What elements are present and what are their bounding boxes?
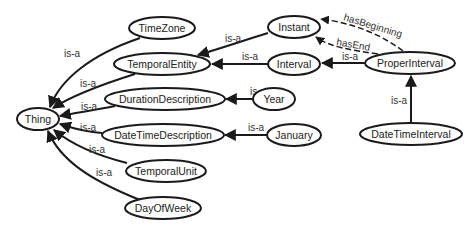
edge-label-isa: is-a bbox=[225, 33, 242, 44]
edge-label-isa: is-a bbox=[248, 122, 265, 133]
svg-text:Thing: Thing bbox=[25, 113, 51, 125]
edge-label-isa: is-a bbox=[391, 95, 408, 106]
edge-label-isa: is-a bbox=[81, 101, 98, 112]
edge-label-isa: is-a bbox=[80, 78, 97, 89]
svg-text:January: January bbox=[275, 129, 313, 141]
node-instant[interactable]: Instant bbox=[268, 16, 320, 38]
svg-text:DayOfWeek: DayOfWeek bbox=[135, 202, 192, 214]
svg-text:Interval: Interval bbox=[277, 58, 311, 70]
node-interval[interactable]: Interval bbox=[268, 53, 320, 75]
svg-text:TemporalUnit: TemporalUnit bbox=[135, 165, 197, 177]
edge-label-isa: is-a bbox=[96, 167, 113, 178]
svg-text:DateTimeInterval: DateTimeInterval bbox=[371, 128, 451, 140]
svg-text:TemporalEntity: TemporalEntity bbox=[127, 58, 197, 70]
node-year[interactable]: Year bbox=[253, 88, 295, 110]
edge-label-isa: is-a bbox=[80, 122, 97, 133]
edge-label-isa: is-a bbox=[64, 48, 81, 59]
node-durationdescription[interactable]: DurationDescription bbox=[105, 88, 225, 110]
svg-text:TimeZone: TimeZone bbox=[139, 22, 186, 34]
node-datetimeinterval[interactable]: DateTimeInterval bbox=[360, 123, 462, 145]
svg-text:Instant: Instant bbox=[278, 21, 310, 33]
node-properinterval[interactable]: ProperInterval bbox=[365, 52, 455, 74]
node-temporalunit[interactable]: TemporalUnit bbox=[126, 160, 206, 182]
edge-label-isa: is-a bbox=[342, 51, 359, 62]
edge-label-isa: is-a bbox=[89, 144, 106, 155]
node-dayofweek[interactable]: DayOfWeek bbox=[125, 197, 201, 219]
svg-text:DateTimeDescription: DateTimeDescription bbox=[114, 129, 212, 141]
node-january[interactable]: January bbox=[267, 124, 321, 146]
edge-label-isa: is-a bbox=[242, 51, 259, 62]
node-timezone[interactable]: TimeZone bbox=[129, 17, 195, 39]
svg-text:ProperInterval: ProperInterval bbox=[377, 57, 443, 69]
svg-text:DurationDescription: DurationDescription bbox=[119, 93, 211, 105]
ontology-diagram: is-a is-a is-a is-a is-a is-a is-a is-a … bbox=[0, 0, 476, 235]
svg-text:Year: Year bbox=[263, 93, 285, 105]
node-thing[interactable]: Thing bbox=[17, 108, 59, 130]
node-datetimedescription[interactable]: DateTimeDescription bbox=[102, 124, 224, 146]
node-temporalentity[interactable]: TemporalEntity bbox=[114, 53, 210, 75]
